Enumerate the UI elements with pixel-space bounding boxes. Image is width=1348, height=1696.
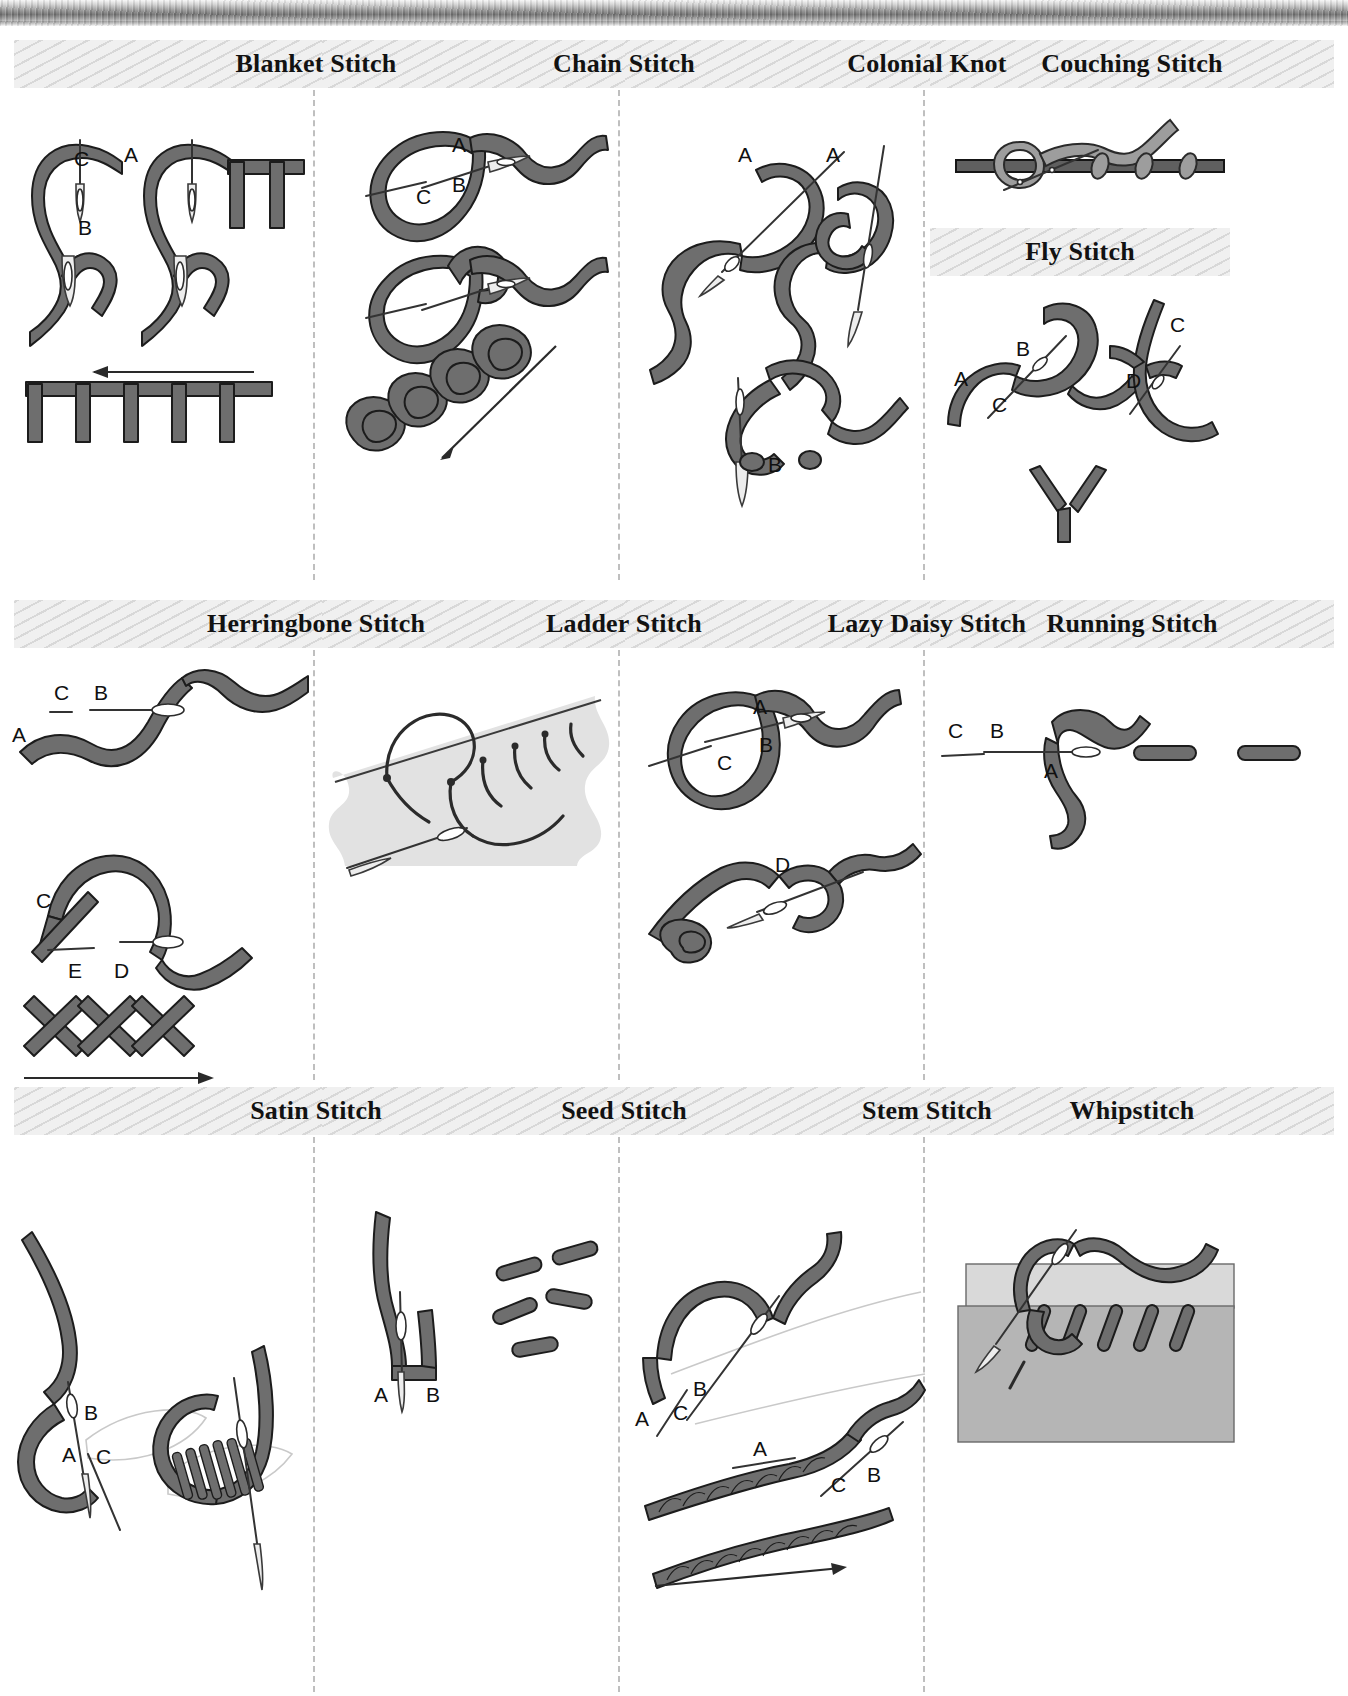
label-seed-a: A bbox=[374, 1383, 388, 1406]
diagram-lazy-daisy-stitch: A B C D bbox=[635, 680, 925, 970]
label-herr-b: B bbox=[94, 681, 108, 704]
title-couching-stitch: Couching Stitch bbox=[1041, 49, 1222, 79]
diagram-running-stitch: C B A bbox=[948, 690, 1328, 850]
label-fly-c2: C bbox=[1170, 313, 1185, 336]
label-stem-c1: C bbox=[673, 1401, 688, 1424]
label-herr-c2: C bbox=[36, 889, 51, 912]
label-satin-a: A bbox=[62, 1443, 76, 1466]
label-blanket-c: C bbox=[74, 147, 89, 170]
title-satin-stitch: Satin Stitch bbox=[250, 1096, 382, 1126]
label-stem-a2: A bbox=[753, 1437, 767, 1460]
diagram-chain-stitch: A B C bbox=[330, 110, 620, 470]
label-satin-c: C bbox=[96, 1445, 111, 1468]
label-herr-d: D bbox=[114, 959, 129, 982]
label-chain-a: A bbox=[452, 133, 466, 156]
label-blanket-b: B bbox=[78, 216, 92, 239]
diagram-herringbone-stitch: C B A C E D bbox=[10, 660, 310, 1080]
label-stem-b2: B bbox=[867, 1463, 881, 1486]
label-daisy-c: C bbox=[717, 751, 732, 774]
label-fly-d: D bbox=[1126, 369, 1141, 392]
column-separator-3-row1 bbox=[923, 90, 925, 580]
label-daisy-b: B bbox=[759, 733, 773, 756]
column-separator-2-row2 bbox=[618, 650, 620, 1080]
diagram-ladder-stitch bbox=[325, 670, 615, 880]
label-colonial-a1: A bbox=[738, 143, 752, 166]
column-separator-1-row3 bbox=[313, 1137, 315, 1692]
label-fly-c1: C bbox=[992, 393, 1007, 416]
label-fly-b: B bbox=[1016, 337, 1030, 360]
header-band-fly-stitch: Fly Stitch bbox=[930, 228, 1230, 276]
label-satin-b: B bbox=[84, 1401, 98, 1424]
label-colonial-a2: A bbox=[826, 143, 840, 166]
label-blanket-a: A bbox=[124, 143, 138, 166]
diagram-whipstitch bbox=[948, 1200, 1248, 1460]
label-herr-e: E bbox=[68, 959, 82, 982]
diagram-couching-stitch bbox=[948, 110, 1238, 220]
title-blanket-stitch: Blanket Stitch bbox=[236, 49, 397, 79]
label-seed-b: B bbox=[426, 1383, 440, 1406]
label-chain-c: C bbox=[416, 185, 431, 208]
label-running-c: C bbox=[948, 719, 963, 742]
label-running-b: B bbox=[990, 719, 1004, 742]
title-ladder-stitch: Ladder Stitch bbox=[546, 609, 702, 639]
label-daisy-a: A bbox=[753, 695, 767, 718]
title-fly-stitch: Fly Stitch bbox=[1025, 237, 1135, 267]
label-herr-c1: C bbox=[54, 681, 69, 704]
title-stem-stitch: Stem Stitch bbox=[862, 1096, 992, 1126]
stitch-chart-page: Blanket Stitch Chain Stitch Colonial Kno… bbox=[0, 0, 1348, 1696]
label-running-a: A bbox=[1044, 759, 1058, 782]
label-stem-c2: C bbox=[831, 1473, 846, 1496]
diagram-stem-stitch: B A C A C B bbox=[635, 1200, 925, 1590]
column-separator-1-row2 bbox=[313, 650, 315, 1080]
title-whipstitch: Whipstitch bbox=[1070, 1096, 1195, 1126]
diagram-colonial-knot: A A B bbox=[632, 110, 922, 480]
label-fly-a: A bbox=[954, 367, 968, 390]
label-colonial-b: B bbox=[768, 453, 782, 476]
label-stem-a1: A bbox=[635, 1407, 649, 1430]
diagram-satin-stitch: B A C bbox=[10, 1190, 310, 1610]
title-seed-stitch: Seed Stitch bbox=[561, 1096, 687, 1126]
label-herr-a: A bbox=[12, 723, 26, 746]
title-colonial-knot: Colonial Knot bbox=[847, 49, 1006, 79]
label-daisy-d: D bbox=[775, 853, 790, 876]
title-running-stitch: Running Stitch bbox=[1046, 609, 1217, 639]
title-herringbone-stitch: Herringbone Stitch bbox=[207, 609, 425, 639]
label-stem-b1: B bbox=[693, 1377, 707, 1400]
label-chain-b: B bbox=[452, 173, 466, 196]
diagram-fly-stitch: A B C C D bbox=[948, 290, 1238, 560]
title-lazy-daisy-stitch: Lazy Daisy Stitch bbox=[828, 609, 1026, 639]
page-top-edge-strip bbox=[0, 0, 1348, 26]
diagram-blanket-stitch: C A B bbox=[14, 100, 314, 460]
diagram-seed-stitch: A B bbox=[340, 1200, 620, 1420]
title-chain-stitch: Chain Stitch bbox=[553, 49, 695, 79]
